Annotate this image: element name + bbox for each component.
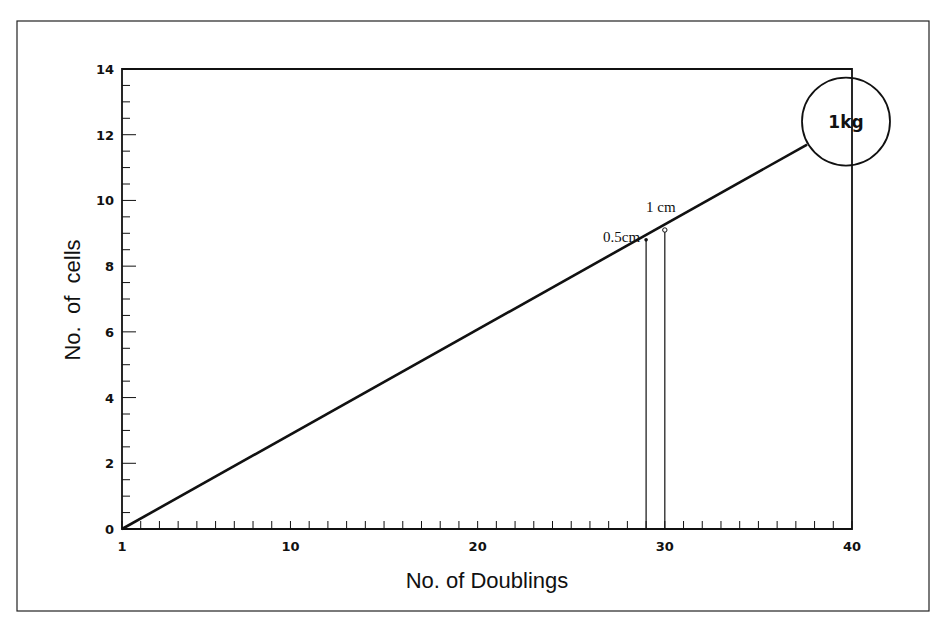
y-tick-label: 4 [105,391,114,406]
x-tick-label: 30 [656,539,674,554]
annotation-label: 0.5cm [603,229,640,245]
y-tick-label: 2 [105,456,114,471]
y-tick-label: 6 [105,325,114,340]
growth-line [122,145,807,529]
x-tick-label: 10 [281,539,299,554]
x-axis-title: No. of Doublings [406,568,569,593]
y-tick-label: 8 [105,259,114,274]
outer-frame [17,21,929,611]
x-tick-label: 1 [117,539,126,554]
plot-area [122,69,852,529]
data-series [122,145,807,529]
y-tick-label: 14 [96,62,114,77]
marker-open-circle [663,228,667,232]
plot-frame [122,69,852,529]
y-tick-label: 10 [96,193,114,208]
one-kg-label: 1kg [828,112,863,132]
marker-dot [644,238,648,242]
y-tick-label: 0 [105,522,114,537]
y-axis-title: No. of cells [60,239,85,360]
y-tick-label: 12 [96,128,114,143]
annotation-label: 1 cm [646,199,676,215]
chart: 11020304002468101214 0.5cm1 cm1kg No. of… [0,0,950,634]
annotations: 0.5cm1 cm1kg [603,78,890,529]
x-tick-label: 40 [843,539,861,554]
x-tick-label: 20 [469,539,487,554]
